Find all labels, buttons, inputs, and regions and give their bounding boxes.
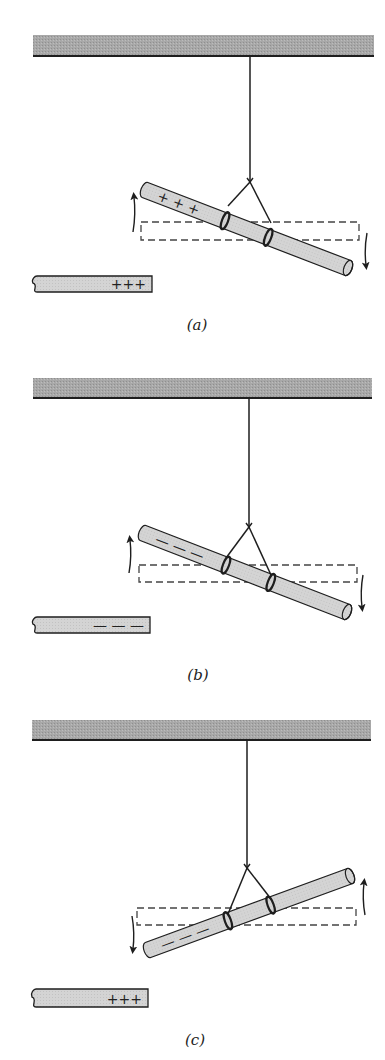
suspended-rod-charge: — — — (158, 920, 211, 953)
suspended-rod: + + + (138, 180, 355, 278)
panel-b: — — —— — — (32, 378, 372, 633)
suspended-rod-charge: — — — (153, 531, 206, 564)
panel-c: — — —+++ (31, 720, 371, 1007)
string-branch (228, 182, 250, 206)
rotation-arrow-down-icon (132, 916, 134, 950)
rotation-arrow-up-icon (133, 196, 135, 232)
panel-caption-b: (b) (187, 666, 208, 684)
panel-caption-a: (a) (187, 316, 208, 334)
string-branch (247, 868, 271, 899)
string-branch (250, 182, 271, 223)
suspended-rod: — — — (136, 523, 354, 622)
ceiling (32, 720, 371, 740)
string-branch (226, 527, 249, 558)
nearby-rod-charge: +++ (107, 991, 142, 1007)
nearby-rod-charge: +++ (111, 276, 146, 292)
ceiling (33, 35, 374, 56)
diagram-svg: + + ++++— — —— — —— — —+++ (0, 0, 385, 1060)
figure-canvas: + + ++++— — —— — —— — —+++ (a)(b)(c) (0, 0, 385, 1060)
rotation-arrow-down-icon (365, 233, 367, 266)
suspended-rod-charge: + + + (155, 188, 202, 219)
rotation-arrow-up-icon (129, 539, 131, 573)
suspended-rod: — — — (141, 866, 357, 960)
ceiling (33, 378, 372, 398)
panel-a: + + ++++ (32, 35, 374, 292)
nearby-rod-charge: — — — (93, 617, 144, 633)
rotation-arrow-down-icon (361, 575, 363, 608)
rotation-arrow-up-icon (363, 882, 365, 915)
panel-caption-c: (c) (185, 1031, 205, 1049)
